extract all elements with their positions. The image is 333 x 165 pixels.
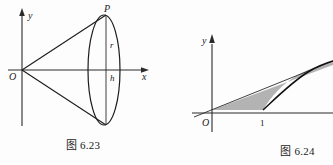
cone-figure-panel: y x O P r h 图 6.23	[0, 0, 166, 165]
cone-figure-caption: 图 6.23	[0, 136, 166, 152]
cone-upper-slant-edge	[22, 15, 106, 70]
x-axis-label: x	[141, 71, 147, 82]
curve-figure-panel: y O 1 图 6.24	[166, 0, 333, 165]
y-axis-arrowhead	[209, 34, 215, 43]
cone-lower-slant-edge	[22, 70, 106, 125]
radius-label: r	[110, 40, 114, 50]
origin-label: O	[202, 117, 209, 128]
x-tick-label-1: 1	[260, 118, 265, 128]
curve-figure-caption: 图 6.24	[166, 142, 333, 158]
y-axis-label: y	[27, 10, 33, 21]
height-label: h	[110, 73, 115, 83]
y-axis-arrowhead	[19, 8, 25, 16]
figure-page: y x O P r h 图 6.23 y O 1	[0, 0, 333, 165]
apex-point-label: P	[103, 3, 110, 14]
origin-label: O	[9, 71, 16, 82]
cone-figure-svg: y x O P r h	[0, 0, 166, 136]
curve-figure-svg: y O 1	[166, 0, 333, 142]
y-axis-label: y	[201, 35, 207, 46]
